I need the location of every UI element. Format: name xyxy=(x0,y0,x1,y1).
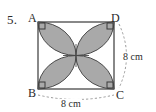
vertex-label-b: B xyxy=(28,87,36,99)
vertex-label-a: A xyxy=(28,12,37,24)
vertex-label-c: C xyxy=(116,89,124,101)
right-dimension-label: 8 cm xyxy=(122,52,144,62)
question-number: 5. xyxy=(7,12,17,28)
bottom-dimension-label: 8 cm xyxy=(60,99,82,109)
vertex-label-d: D xyxy=(111,12,120,24)
